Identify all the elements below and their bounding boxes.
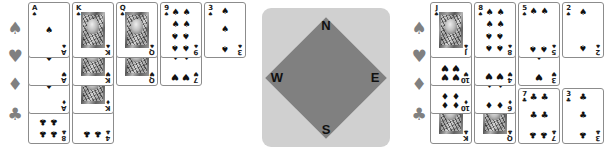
card-pip: ♠ — [182, 20, 190, 29]
card-suit-icon: ♦ — [60, 99, 68, 105]
card-pip: ♠ — [496, 43, 504, 52]
card-pip: ♠ — [171, 31, 179, 40]
card-suit-icon: ♥ — [462, 71, 470, 77]
suit-marker-column-right: ♠♥♦♣ — [406, 0, 432, 155]
card-suit-icon: ♠ — [192, 43, 200, 49]
card-5-spade[interactable]: 5♠5♠♠♠♠♠ — [518, 2, 560, 58]
card-pip: ♥ — [171, 72, 179, 81]
card-index-bottom-right: 8♣ — [60, 129, 68, 141]
card-suit-icon: ♠ — [550, 43, 558, 49]
card-pip-grid: ♣♣♣♣♣♣ — [528, 93, 550, 139]
card-pip: ♥ — [452, 63, 460, 72]
card-pip: ♠ — [540, 44, 548, 53]
card-3-club[interactable]: 3♣3♣♣♣♣ — [562, 88, 604, 144]
card-suit-icon: ♦ — [462, 99, 470, 105]
card-pip: ♠ — [579, 43, 587, 52]
card-index-bottom-right: 6♦ — [506, 99, 514, 111]
card-pip: ♠ — [171, 8, 179, 17]
card-pip-grid: ♣♣♣ — [572, 93, 594, 139]
card-pip: ♥ — [441, 63, 449, 72]
card-pip: ♠ — [496, 20, 504, 29]
card-pip: ♦ — [452, 91, 460, 100]
card-pip: ♣ — [39, 117, 47, 126]
card-index-bottom-right: 5♠ — [550, 43, 558, 55]
court-card-portrait — [125, 12, 149, 48]
card-index-bottom-right: A♥ — [60, 71, 68, 83]
card-J-spade[interactable]: J♠J♠ — [430, 2, 472, 58]
card-pip: ♣ — [529, 93, 537, 102]
card-pip: ♥ — [441, 72, 449, 81]
card-pip: ♠ — [171, 43, 179, 52]
card-7-club[interactable]: 7♣7♣♣♣♣♣♣♣ — [518, 88, 560, 144]
card-index-bottom-right: 3♠ — [236, 43, 244, 55]
suit-marker-club: ♣ — [2, 106, 28, 123]
card-pip: ♠ — [221, 44, 229, 53]
card-9-spade[interactable]: 9♠9♠♠♠♠♠♠♠♠♠ — [160, 2, 202, 58]
court-card-portrait — [439, 12, 463, 48]
card-pip: ♣ — [39, 129, 47, 138]
card-index-bottom-right: 8♠ — [506, 43, 514, 55]
card-pip: ♠ — [182, 43, 190, 52]
card-pip: ♠ — [485, 8, 493, 17]
card-Q-spade[interactable]: Q♠Q♠ — [116, 2, 158, 58]
card-index-bottom-right: 10♦ — [462, 99, 470, 111]
suit-marker-heart: ♥ — [2, 48, 28, 65]
card-8-spade[interactable]: 8♠8♠♠♠♠♠♠♠♠♠ — [474, 2, 516, 58]
card-pip: ♣ — [579, 130, 587, 139]
card-suit-icon: ♥ — [506, 71, 514, 77]
card-pip: ♣ — [50, 129, 58, 138]
card-pip: ♣ — [540, 130, 548, 139]
card-index-bottom-right: 4♥ — [506, 71, 514, 83]
card-suit-icon: ♣ — [594, 129, 602, 135]
card-suit-icon: ♦ — [506, 99, 514, 105]
card-pip: ♣ — [50, 117, 58, 126]
card-suit-icon: ♣ — [60, 129, 68, 135]
card-index-bottom-right: 3♥ — [550, 71, 558, 83]
card-pip: ♥ — [452, 72, 460, 81]
suit-marker-column-left: ♠♥♦♣ — [2, 0, 28, 155]
card-pip-grid: ♠♠♠♠ — [528, 7, 550, 53]
card-pip: ♣ — [579, 93, 587, 102]
card-pip: ♠ — [221, 25, 229, 34]
compass-north-label: N — [262, 19, 390, 32]
card-row-spade: J♠J♠8♠8♠♠♠♠♠♠♠♠♠5♠5♠♠♠♠♠2♠2♠♠♠ — [430, 2, 604, 58]
card-suit-icon: ♥ — [550, 71, 558, 77]
card-pip: ♠ — [529, 44, 537, 53]
suit-marker-club: ♣ — [406, 106, 432, 123]
card-suit-icon: ♣ — [104, 129, 112, 135]
suit-marker-diamond: ♦ — [2, 76, 28, 93]
card-pip: ♠ — [221, 7, 229, 16]
card-pip: ♦ — [496, 100, 504, 109]
card-index-bottom-right: 7♣ — [550, 129, 558, 141]
card-pip: ♣ — [94, 129, 102, 138]
compass-west-label: W — [269, 71, 285, 84]
card-K-spade[interactable]: K♠K♠ — [72, 2, 114, 58]
hand-east: J♠J♠8♠8♠♠♠♠♠♠♠♠♠5♠5♠♠♠♠♠2♠2♠♠♠10♥10♥♥♥♥♥… — [430, 0, 595, 155]
card-A-spade[interactable]: A♠A♠♠ — [28, 2, 70, 58]
card-suit-icon: ♠ — [236, 43, 244, 49]
card-pip: ♠ — [485, 31, 493, 40]
card-pip: ♠ — [540, 7, 548, 16]
card-suit-icon: ♠ — [506, 43, 514, 49]
compass-east-label: E — [367, 71, 383, 84]
card-pip-grid: ♠♠ — [572, 7, 594, 53]
card-3-spade[interactable]: 3♠3♠♠♠♠ — [204, 2, 246, 58]
card-pip: ♠ — [496, 31, 504, 40]
suit-marker-diamond: ♦ — [406, 76, 432, 93]
card-pip: ♥ — [182, 72, 190, 81]
card-index-bottom-right: 7♥ — [192, 71, 200, 83]
card-suit-icon: ♥ — [192, 71, 200, 77]
suit-marker-spade: ♠ — [2, 20, 28, 37]
card-pip-grid: ♠♠♠♠♠♠♠♠ — [484, 7, 506, 53]
court-card-portrait — [81, 12, 105, 48]
card-pip-grid: ♠ — [38, 7, 60, 53]
card-index-bottom-right: 9♠ — [192, 43, 200, 55]
card-pip: ♠ — [485, 43, 493, 52]
card-pip: ♣ — [529, 130, 537, 139]
card-index-bottom-right: 10♥ — [462, 71, 470, 83]
suit-marker-spade: ♠ — [406, 20, 432, 37]
card-2-spade[interactable]: 2♠2♠♠♠ — [562, 2, 604, 58]
card-pip: ♥ — [485, 71, 493, 80]
card-pip: ♠ — [182, 8, 190, 17]
card-index-bottom-right: 4♣ — [104, 129, 112, 141]
